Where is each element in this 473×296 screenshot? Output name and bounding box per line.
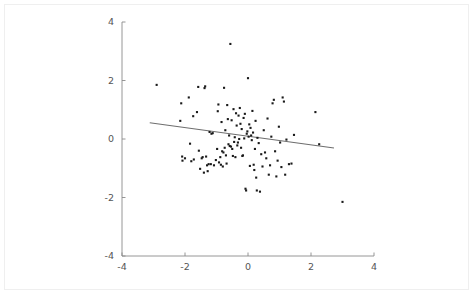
data-point: [225, 154, 227, 156]
data-point: [236, 144, 238, 146]
x-tick-label: 0: [245, 261, 251, 272]
data-point: [256, 189, 258, 191]
data-point: [192, 115, 194, 117]
data-point: [254, 148, 256, 150]
data-point: [202, 156, 204, 158]
data-point: [284, 174, 286, 176]
data-point: [212, 132, 214, 134]
data-point: [269, 164, 271, 166]
data-point: [184, 157, 186, 159]
data-point: [205, 156, 207, 158]
data-point: [277, 160, 279, 162]
regression-line-group: [150, 123, 334, 148]
scatter-plot-figure: -4-2024 -4-2024: [0, 0, 473, 296]
data-point: [248, 136, 250, 138]
data-point: [255, 177, 257, 179]
data-point: [270, 136, 272, 138]
data-point: [217, 110, 219, 112]
data-point: [283, 101, 285, 103]
data-point: [181, 156, 183, 158]
data-point: [208, 163, 210, 165]
data-point: [246, 130, 248, 132]
data-point: [266, 117, 268, 119]
data-point: [238, 115, 240, 117]
data-point: [242, 154, 244, 156]
data-point: [290, 163, 292, 165]
y-tick-label: 2: [108, 75, 114, 86]
data-point: [293, 134, 295, 136]
data-point: [263, 129, 265, 131]
data-point: [251, 139, 253, 141]
data-point: [226, 163, 228, 165]
data-point: [232, 155, 234, 157]
data-point: [193, 158, 195, 160]
data-point: [209, 131, 211, 133]
data-point: [235, 112, 237, 114]
data-point: [261, 165, 263, 167]
data-point: [265, 157, 267, 159]
y-tick-label: -2: [105, 192, 114, 203]
data-point: [190, 160, 192, 162]
axis-group: [122, 22, 374, 256]
data-point: [273, 99, 275, 101]
data-point: [256, 137, 258, 139]
x-tick-label: 2: [308, 261, 314, 272]
data-point: [227, 118, 229, 120]
data-point: [210, 163, 212, 165]
data-point: [249, 165, 251, 167]
data-point: [285, 139, 287, 141]
data-point: [233, 141, 235, 143]
data-point: [248, 123, 250, 125]
data-point: [252, 132, 254, 134]
y-tick-label: 0: [108, 133, 114, 144]
data-point: [274, 150, 276, 152]
data-point: [253, 169, 255, 171]
y-tick-label: -4: [105, 250, 114, 261]
data-point: [278, 126, 280, 128]
data-point: [217, 103, 219, 105]
data-point: [156, 84, 158, 86]
data-point: [229, 43, 231, 45]
data-points-group: [156, 43, 344, 203]
data-point: [224, 129, 226, 131]
data-point: [181, 160, 183, 162]
data-point: [246, 133, 248, 135]
data-point: [288, 163, 290, 165]
data-point: [219, 156, 221, 158]
data-point: [179, 120, 181, 122]
data-point: [220, 121, 222, 123]
data-point: [253, 164, 255, 166]
data-point: [275, 175, 277, 177]
data-point: [259, 191, 261, 193]
data-point: [245, 189, 247, 191]
data-point: [196, 111, 198, 113]
data-point: [264, 151, 266, 153]
data-point: [280, 166, 282, 168]
data-point: [204, 85, 206, 87]
data-point: [188, 96, 190, 98]
data-point: [180, 102, 182, 104]
data-point: [279, 141, 281, 143]
data-point: [220, 164, 222, 166]
data-point: [238, 138, 240, 140]
data-point: [244, 113, 246, 115]
data-point: [240, 147, 242, 149]
data-point: [207, 170, 209, 172]
data-point: [198, 150, 200, 152]
data-point: [251, 110, 253, 112]
data-point: [249, 127, 251, 129]
data-point: [224, 147, 226, 149]
data-point: [203, 172, 205, 174]
data-point: [239, 107, 241, 109]
data-point: [247, 77, 249, 79]
data-point: [216, 148, 218, 150]
data-point: [199, 168, 201, 170]
data-point: [218, 161, 220, 163]
x-tick-label: -2: [180, 261, 189, 272]
data-point: [226, 104, 228, 106]
data-point: [282, 96, 284, 98]
x-tick-label: -4: [117, 261, 126, 272]
data-point: [234, 136, 236, 138]
data-point: [230, 146, 232, 148]
data-point: [255, 120, 257, 122]
